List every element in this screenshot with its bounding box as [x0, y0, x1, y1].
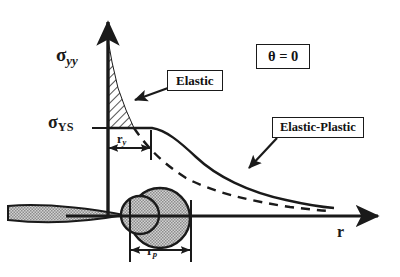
sigma-ys-symbol: σ — [48, 112, 58, 132]
sigma-ys-label: σYS — [48, 112, 73, 135]
hatched-elastic-region — [108, 40, 134, 128]
rp-subscript: p — [153, 249, 157, 259]
ry-subscript: y — [123, 137, 127, 147]
sigma-symbol: σ — [56, 44, 66, 65]
theta-annotation-box: θ = 0 — [256, 44, 310, 69]
sigma-yy-subscript: yy — [66, 53, 77, 68]
rp-dimension-label: rp — [147, 243, 157, 259]
elastic-plastic-label-box: Elastic-Plastic — [272, 117, 364, 138]
y-axis-label: σyy — [56, 44, 78, 69]
x-axis-label: r — [337, 223, 344, 241]
elastic-label-box: Elastic — [167, 70, 223, 91]
ry-dimension-label: ry — [117, 132, 126, 147]
sigma-ys-subscript: YS — [58, 120, 74, 134]
elastic-callout-arrow — [135, 88, 168, 100]
elastic-plastic-callout-arrow — [249, 138, 277, 168]
